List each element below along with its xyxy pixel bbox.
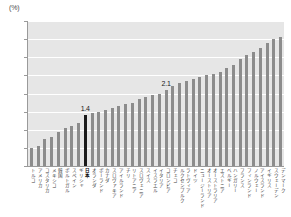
bar bbox=[124, 104, 127, 166]
x-axis-tick-label: リトアニア bbox=[129, 168, 135, 193]
bar bbox=[171, 86, 174, 166]
bar bbox=[70, 126, 73, 166]
x-axis-tick-label: ルクセンブルク bbox=[177, 168, 183, 203]
x-axis-tick-label: コロンビア bbox=[163, 168, 169, 193]
y-axis: 4.03.53.02.52.01.51.00.50.0 bbox=[0, 0, 25, 217]
bar bbox=[37, 146, 40, 166]
x-axis-tick-label: 韓国 bbox=[55, 168, 61, 178]
bars-container bbox=[28, 21, 284, 166]
bar bbox=[77, 123, 80, 167]
x-axis-tick-label: アイルランド bbox=[116, 168, 122, 198]
bar bbox=[178, 83, 181, 166]
x-axis-tick-label: イタリア bbox=[156, 168, 162, 188]
x-axis-tick-label: エストニア bbox=[217, 168, 223, 193]
x-axis-tick-label: ドイツ bbox=[190, 168, 196, 183]
x-axis-tick-label: チリ bbox=[123, 168, 129, 178]
bar bbox=[158, 94, 161, 167]
x-axis-labels: トルコアメリカコスタリカメキシコ韓国ポルトガルスペインギリシャ日本オランダポーラ… bbox=[28, 168, 284, 217]
bar bbox=[117, 106, 120, 166]
bar bbox=[225, 68, 228, 166]
bar bbox=[185, 81, 188, 166]
bar bbox=[131, 103, 134, 166]
x-axis-tick-label: オーストラリア bbox=[210, 168, 216, 203]
bar bbox=[43, 139, 46, 166]
x-axis-tick-label: イギリス bbox=[264, 168, 270, 188]
x-axis-tick-label: アイスランド bbox=[257, 168, 263, 198]
bar-value-annotation: 2.1 bbox=[162, 80, 171, 87]
x-axis-tick-label: カナダ bbox=[102, 168, 108, 183]
bar bbox=[144, 97, 147, 166]
x-axis-tick-label: コスタリカ bbox=[42, 168, 48, 193]
x-axis-tick-label: ポルトガル bbox=[62, 168, 68, 193]
x-axis-tick-label: ポーランド bbox=[96, 168, 102, 193]
x-axis-tick-label: オランダ bbox=[89, 168, 95, 188]
x-axis-tick-label: ベルギー bbox=[224, 168, 230, 188]
x-axis-tick-label: スロヴァキア bbox=[109, 168, 115, 198]
x-axis-tick-label: ラトヴィア bbox=[183, 168, 189, 193]
bar bbox=[205, 75, 208, 166]
x-axis-tick-label: 日本 bbox=[82, 168, 88, 178]
bar bbox=[198, 77, 201, 166]
bar bbox=[232, 65, 235, 167]
bar bbox=[111, 108, 114, 166]
x-axis-tick-label: スペイン bbox=[69, 168, 75, 188]
x-axis-line bbox=[28, 166, 284, 167]
bar bbox=[279, 37, 282, 166]
x-axis-tick-label: アメリカ bbox=[35, 168, 41, 188]
bar bbox=[272, 39, 275, 166]
bar bbox=[64, 128, 67, 166]
bar bbox=[97, 112, 100, 166]
x-axis-tick-label: チェコ bbox=[170, 168, 176, 183]
x-axis-tick-label: ノルウェー bbox=[251, 168, 257, 193]
x-axis-tick-label: メキシコ bbox=[49, 168, 55, 188]
bar bbox=[138, 99, 141, 166]
bar-value-annotation: 1.4 bbox=[81, 105, 90, 112]
bar bbox=[91, 113, 94, 166]
bar bbox=[84, 115, 87, 166]
x-axis-tick-label: オーストリア bbox=[204, 168, 210, 198]
bar bbox=[212, 74, 215, 166]
bar bbox=[245, 55, 248, 166]
bar bbox=[104, 110, 107, 166]
bar bbox=[219, 72, 222, 166]
bar bbox=[50, 137, 53, 166]
bar bbox=[259, 48, 262, 166]
bar bbox=[57, 132, 60, 166]
x-axis-tick-label: ニュージーランド bbox=[197, 168, 203, 208]
bar bbox=[266, 43, 269, 166]
bar bbox=[30, 148, 33, 166]
bar bbox=[165, 90, 168, 166]
bar bbox=[192, 79, 195, 166]
x-axis-tick-label: イスラエル bbox=[150, 168, 156, 193]
bar bbox=[239, 59, 242, 166]
x-axis-tick-label: スロヴェニア bbox=[136, 168, 142, 198]
x-axis-tick-label: デンマーク bbox=[278, 168, 284, 193]
bar bbox=[151, 95, 154, 166]
x-axis-tick-label: スウェーデン bbox=[271, 168, 277, 198]
x-axis-tick-label: スイス bbox=[143, 168, 149, 183]
x-axis-tick-label: フランス bbox=[237, 168, 243, 188]
x-axis-tick-label: トルコ bbox=[28, 168, 34, 183]
x-axis-tick-label: ハンガリー bbox=[230, 168, 236, 193]
bar-chart: (%) 4.03.53.02.52.01.51.00.50.0 トルコアメリカコ… bbox=[0, 0, 291, 217]
bar bbox=[252, 52, 255, 166]
x-axis-tick-label: フィンランド bbox=[244, 168, 250, 198]
x-axis-tick-label: ギリシャ bbox=[76, 168, 82, 188]
